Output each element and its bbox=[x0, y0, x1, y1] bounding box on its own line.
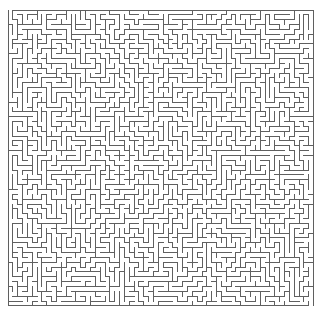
maze-canvas bbox=[0, 0, 323, 316]
maze-figure bbox=[0, 0, 323, 316]
